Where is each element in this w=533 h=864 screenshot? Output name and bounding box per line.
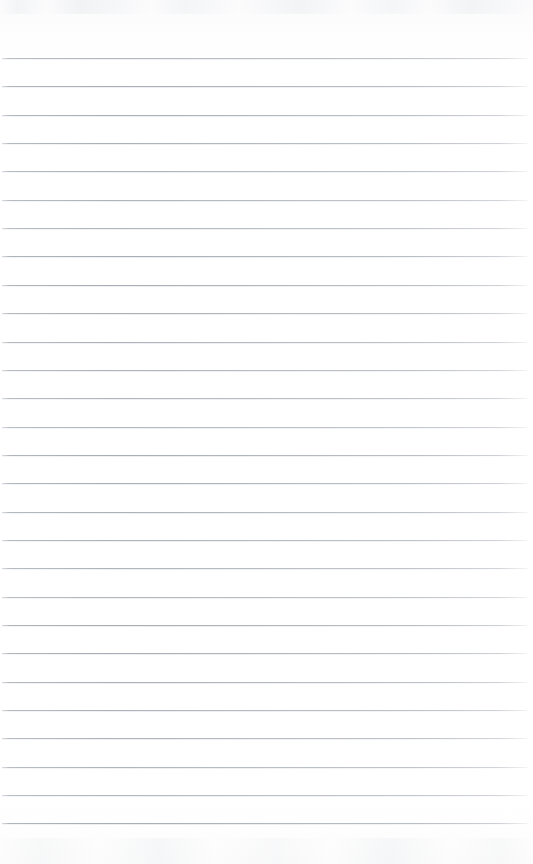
rule-line <box>2 540 530 541</box>
ruled-lines-layer <box>0 0 533 864</box>
rule-line <box>2 58 530 59</box>
rule-line <box>2 228 530 229</box>
rule-line <box>2 653 530 654</box>
rule-line <box>2 597 530 598</box>
rule-line <box>2 86 530 87</box>
rule-line <box>2 115 530 116</box>
rule-line <box>2 171 530 172</box>
rule-line <box>2 483 530 484</box>
rule-line <box>2 795 530 796</box>
rule-line <box>2 285 530 286</box>
rule-line <box>2 398 530 399</box>
rule-line <box>2 455 530 456</box>
rule-line <box>2 256 530 257</box>
rule-line <box>2 738 530 739</box>
rule-line <box>2 370 530 371</box>
rule-line <box>2 143 530 144</box>
rule-line <box>2 710 530 711</box>
rule-line <box>2 313 530 314</box>
rule-line <box>2 823 530 824</box>
rule-line <box>2 427 530 428</box>
rule-line <box>2 682 530 683</box>
rule-line <box>2 342 530 343</box>
rule-line <box>2 512 530 513</box>
notebook-page <box>0 0 533 864</box>
rule-line <box>2 625 530 626</box>
rule-line <box>2 767 530 768</box>
rule-line <box>2 200 530 201</box>
rule-line <box>2 568 530 569</box>
